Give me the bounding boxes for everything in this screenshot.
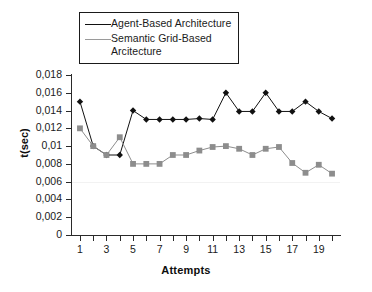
y-tick-label: 0,008 bbox=[2, 157, 62, 169]
y-tick bbox=[66, 93, 71, 94]
data-point-marker bbox=[316, 162, 322, 168]
data-point-marker bbox=[130, 107, 136, 113]
x-tick bbox=[186, 236, 187, 241]
x-tick bbox=[319, 236, 320, 241]
y-tick-label: 0,002 bbox=[2, 210, 62, 222]
x-tick bbox=[160, 236, 161, 241]
data-point-marker bbox=[276, 108, 282, 114]
x-tick bbox=[106, 236, 107, 241]
data-point-marker bbox=[329, 115, 335, 121]
legend-entry-semantic-grid: Semantic Grid-Based Arcitecture bbox=[85, 32, 233, 57]
x-tick-label: 1 bbox=[70, 243, 90, 255]
y-tick bbox=[66, 146, 71, 147]
y-tick-label: 0,004 bbox=[2, 192, 62, 204]
data-point-marker bbox=[329, 171, 335, 177]
series-agent-based bbox=[77, 90, 335, 159]
x-tick bbox=[266, 236, 267, 241]
x-tick-label: 7 bbox=[150, 243, 170, 255]
x-tick bbox=[93, 236, 94, 241]
data-point-marker bbox=[170, 116, 176, 122]
data-point-marker bbox=[143, 161, 149, 167]
y-tick bbox=[66, 128, 71, 129]
data-point-marker bbox=[157, 161, 163, 167]
data-point-marker bbox=[249, 108, 255, 114]
legend-label-semantic-grid: Semantic Grid-Based Arcitecture bbox=[111, 32, 212, 57]
y-tick-label: 0,016 bbox=[2, 86, 62, 98]
x-tick bbox=[80, 236, 81, 241]
x-tick bbox=[199, 236, 200, 241]
data-point-marker bbox=[130, 161, 136, 167]
x-tick bbox=[306, 236, 307, 241]
chart-legend: Agent-Based Architecture Semantic Grid-B… bbox=[79, 12, 239, 64]
data-point-marker bbox=[276, 144, 282, 150]
x-tick-label: 19 bbox=[309, 243, 329, 255]
y-tick bbox=[66, 199, 71, 200]
data-point-marker bbox=[183, 152, 189, 158]
y-tick-label: 0,012 bbox=[2, 121, 62, 133]
data-point-marker bbox=[223, 90, 229, 96]
x-axis-title: Attempts bbox=[0, 264, 372, 276]
series-line bbox=[80, 93, 332, 155]
y-tick bbox=[66, 182, 71, 183]
data-point-marker bbox=[156, 116, 162, 122]
legend-key-square-icon bbox=[85, 33, 111, 46]
y-tick bbox=[66, 235, 71, 236]
y-tick-label: 0,006 bbox=[2, 175, 62, 187]
y-tick bbox=[66, 75, 71, 76]
plot-area bbox=[72, 75, 340, 235]
chart-figure: Agent-Based Architecture Semantic Grid-B… bbox=[0, 0, 372, 292]
x-tick-label: 11 bbox=[203, 243, 223, 255]
x-tick bbox=[133, 236, 134, 241]
data-point-marker bbox=[223, 143, 229, 149]
y-tick-label: 0,018 bbox=[2, 68, 62, 80]
data-point-marker bbox=[183, 116, 189, 122]
data-point-marker bbox=[289, 160, 295, 166]
legend-entry-agent-based: Agent-Based Architecture bbox=[85, 17, 233, 31]
y-tick-label: 0 bbox=[2, 228, 62, 240]
data-point-marker bbox=[209, 116, 215, 122]
y-tick bbox=[66, 111, 71, 112]
x-tick-label: 15 bbox=[256, 243, 276, 255]
x-tick bbox=[239, 236, 240, 241]
legend-label-agent-based: Agent-Based Architecture bbox=[111, 17, 231, 30]
x-tick-label: 13 bbox=[229, 243, 249, 255]
x-tick bbox=[226, 236, 227, 241]
y-tick bbox=[66, 164, 71, 165]
data-point-marker bbox=[210, 144, 216, 150]
x-tick-label: 3 bbox=[96, 243, 116, 255]
data-point-marker bbox=[77, 98, 83, 104]
data-point-marker bbox=[196, 148, 202, 154]
data-point-marker bbox=[170, 152, 176, 158]
data-point-marker bbox=[77, 125, 83, 131]
y-tick-label: 0,014 bbox=[2, 104, 62, 116]
x-tick bbox=[146, 236, 147, 241]
x-axis-line bbox=[71, 235, 341, 236]
data-point-marker bbox=[117, 152, 123, 158]
data-point-marker bbox=[104, 152, 110, 158]
legend-key-diamond-icon bbox=[85, 18, 111, 31]
series-semantic-grid bbox=[77, 125, 335, 176]
data-point-marker bbox=[90, 143, 96, 149]
x-tick bbox=[252, 236, 253, 241]
data-point-marker bbox=[236, 146, 242, 152]
x-tick bbox=[279, 236, 280, 241]
data-point-marker bbox=[303, 170, 309, 176]
data-point-marker bbox=[117, 134, 123, 140]
data-point-marker bbox=[263, 146, 269, 152]
y-tick bbox=[66, 217, 71, 218]
x-tick bbox=[173, 236, 174, 241]
x-tick bbox=[292, 236, 293, 241]
data-point-marker bbox=[236, 108, 242, 114]
y-axis-title: t(sec) bbox=[18, 113, 30, 173]
data-point-marker bbox=[250, 152, 256, 158]
series-canvas bbox=[72, 75, 340, 235]
x-tick-label: 5 bbox=[123, 243, 143, 255]
data-point-marker bbox=[143, 116, 149, 122]
x-tick bbox=[213, 236, 214, 241]
x-tick-label: 9 bbox=[176, 243, 196, 255]
x-tick bbox=[120, 236, 121, 241]
data-point-marker bbox=[263, 90, 269, 96]
x-tick bbox=[332, 236, 333, 241]
data-point-marker bbox=[196, 115, 202, 121]
y-tick-label: 0,01 bbox=[2, 139, 62, 151]
